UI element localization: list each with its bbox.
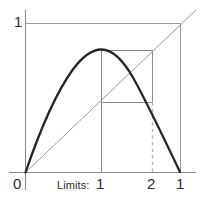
identity-line [26, 10, 197, 173]
x-tick-label-limit-1: 1 [96, 176, 104, 191]
x-tick-label-limit-2: 2 [147, 176, 155, 191]
x-tick-label-max: 1 [176, 176, 184, 191]
x-tick-label-origin: 0 [13, 176, 21, 191]
parabola-curve [26, 50, 181, 173]
y-tick-label-1: 1 [14, 14, 22, 29]
plot-canvas [0, 0, 201, 197]
limits-annotation-label: Limits: [57, 180, 89, 191]
cobweb-figure: 1 0 Limits: 1 2 1 [0, 0, 201, 197]
